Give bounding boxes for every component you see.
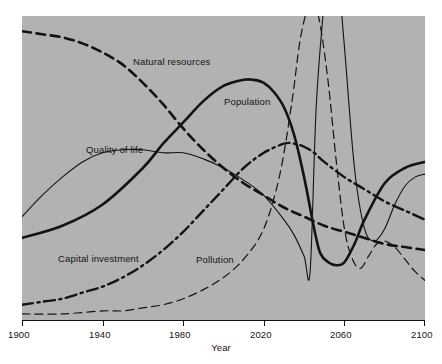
curve-pollution [22,16,425,314]
series-label-natural-resources: Natural resources [133,57,211,67]
x-tick-label-1900: 1900 [8,330,30,340]
series-label-population: Population [224,97,270,107]
plot-area [22,16,425,320]
x-tick-label-2060: 2060 [330,330,352,340]
x-tick-label-1980: 1980 [169,330,191,340]
curves-layer [22,16,425,320]
x-axis-title: Year [0,343,442,353]
x-tick-label-2100: 2100 [411,330,433,340]
world-model-chart: 1900 1940 1980 2020 2060 2100 Year Natur… [0,0,442,364]
x-tick-label-1940: 1940 [89,330,111,340]
x-tick-label-2020: 2020 [250,330,272,340]
series-label-quality-of-life: Quality of life [86,145,143,155]
series-label-pollution: Pollution [196,255,234,265]
curve-quality-of-life [22,16,425,280]
series-label-capital-investment: Capital investment [58,254,139,264]
